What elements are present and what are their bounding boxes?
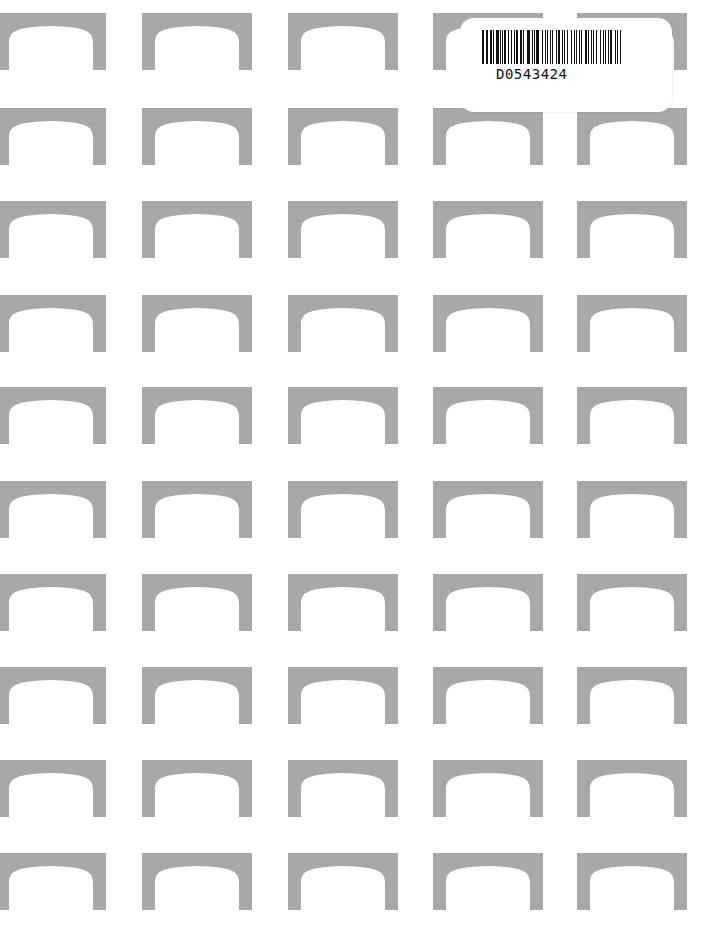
arch-shape bbox=[142, 853, 252, 910]
arch-shape bbox=[577, 760, 687, 817]
arch-shape bbox=[0, 295, 106, 352]
arch-shape bbox=[0, 108, 106, 165]
arch-shape bbox=[577, 481, 687, 538]
arch-shape bbox=[142, 481, 252, 538]
arch-shape bbox=[0, 13, 106, 70]
arch-shape bbox=[0, 853, 106, 910]
arch-shape bbox=[0, 760, 106, 817]
arch-shape bbox=[577, 295, 687, 352]
arch-shape bbox=[142, 108, 252, 165]
arch-shape bbox=[433, 481, 543, 538]
arch-shape bbox=[288, 481, 398, 538]
arch-shape bbox=[577, 108, 687, 165]
arch-shape bbox=[433, 760, 543, 817]
arch-shape bbox=[288, 574, 398, 631]
arch-shape bbox=[142, 760, 252, 817]
arch-shape bbox=[288, 760, 398, 817]
arch-shape bbox=[142, 574, 252, 631]
barcode-number: D0543424 bbox=[496, 66, 567, 82]
arch-shape bbox=[288, 295, 398, 352]
arch-shape bbox=[0, 387, 106, 444]
arch-shape bbox=[577, 853, 687, 910]
arch-shape bbox=[577, 574, 687, 631]
arch-shape bbox=[433, 295, 543, 352]
arch-shape bbox=[433, 108, 543, 165]
arch-shape bbox=[577, 667, 687, 724]
arch-shape bbox=[142, 13, 252, 70]
arch-shape bbox=[0, 667, 106, 724]
arch-shape bbox=[142, 667, 252, 724]
arch-shape bbox=[142, 387, 252, 444]
arch-shape bbox=[288, 853, 398, 910]
arch-shape bbox=[433, 387, 543, 444]
arch-shape bbox=[433, 667, 543, 724]
arch-shape bbox=[0, 574, 106, 631]
arch-shape bbox=[577, 387, 687, 444]
arch-shape bbox=[433, 201, 543, 258]
arch-shape bbox=[0, 201, 106, 258]
arch-shape bbox=[577, 201, 687, 258]
arch-shape bbox=[288, 13, 398, 70]
arch-shape bbox=[288, 667, 398, 724]
arch-shape bbox=[142, 295, 252, 352]
arch-shape bbox=[142, 201, 252, 258]
arch-shape bbox=[288, 387, 398, 444]
barcode-icon bbox=[482, 30, 622, 64]
barcode-label: D0543424 bbox=[460, 18, 672, 112]
arch-shape bbox=[0, 481, 106, 538]
arch-shape bbox=[288, 201, 398, 258]
arch-shape bbox=[433, 853, 543, 910]
arch-shape bbox=[288, 108, 398, 165]
arch-shape bbox=[433, 574, 543, 631]
